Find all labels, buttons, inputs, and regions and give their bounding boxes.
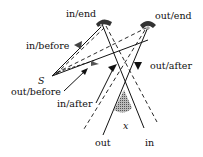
out-end-mirror-icon	[140, 21, 156, 29]
out-before-arrow	[64, 70, 86, 91]
s-to-in-end-dashed	[56, 28, 104, 74]
out-after-marker-icon	[134, 62, 142, 70]
out-after-label: out/after	[150, 60, 192, 71]
source-label: S	[38, 75, 45, 86]
in-label: in	[145, 137, 154, 148]
in-end-mirror-icon	[96, 19, 112, 27]
in-end-label: in/end	[66, 8, 96, 19]
s-fan-dashed	[58, 60, 96, 72]
in-before-label: in/before	[26, 40, 70, 51]
in-after-label: in/after	[57, 98, 93, 109]
out-before-marker-icon	[91, 61, 99, 66]
in-after-arrowhead-icon	[108, 64, 117, 72]
out-before-label: out/before	[11, 86, 61, 97]
s-to-in-end-line	[52, 27, 101, 76]
angle-label: x	[123, 120, 129, 131]
out-end-label: out/end	[155, 10, 192, 21]
diagram-canvas: in/end out/end in/before out/after S out…	[0, 0, 203, 157]
out-label: out	[95, 137, 111, 148]
in-before-marker-icon	[74, 41, 82, 49]
